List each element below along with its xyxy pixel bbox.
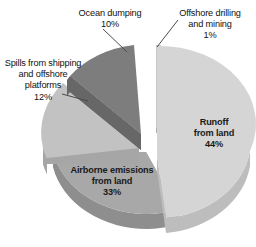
slice-label-spills-line2: and offshore xyxy=(1,69,85,80)
slice-label-airborne: Airborne emissions from land 33% xyxy=(60,165,164,199)
slice-label-ocean-dumping: Ocean dumping 10% xyxy=(62,8,158,30)
slice-label-spills-percent: 12% xyxy=(1,92,85,103)
slice-label-spills-line3: platforms xyxy=(1,80,85,91)
slice-label-spills: Spills from shipping and offshore platfo… xyxy=(1,58,85,103)
slice-label-runoff-line1: Runoff xyxy=(178,117,250,128)
slice-label-airborne-line1: Airborne emissions xyxy=(60,165,164,176)
slice-label-runoff-percent: 44% xyxy=(178,139,250,150)
slice-label-runoff: Runoff from land 44% xyxy=(178,117,250,151)
slice-label-ocean-dumping-line1: Ocean dumping xyxy=(62,8,158,19)
slice-label-offshore-drilling-percent: 1% xyxy=(166,30,254,41)
slice-label-runoff-line2: from land xyxy=(178,128,250,139)
pie-chart: Ocean dumping 10% Offshore drilling and … xyxy=(0,0,256,247)
slice-label-ocean-dumping-percent: 10% xyxy=(62,19,158,30)
leader-line-ocean-dumping xyxy=(103,29,127,52)
slice-label-airborne-percent: 33% xyxy=(60,187,164,198)
slice-label-airborne-line2: from land xyxy=(60,176,164,187)
slice-label-offshore-drilling-line1: Offshore drilling xyxy=(166,8,254,19)
slice-label-spills-line1: Spills from shipping xyxy=(1,58,85,69)
slice-label-offshore-drilling: Offshore drilling and mining 1% xyxy=(166,8,254,42)
slice-label-offshore-drilling-line2: and mining xyxy=(166,19,254,30)
